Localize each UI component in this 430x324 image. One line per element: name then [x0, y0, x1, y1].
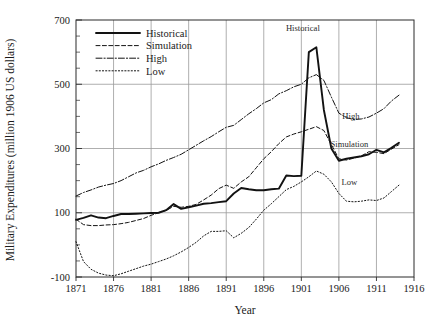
chart-container: 1871187618811886189118961901190619111916… — [0, 0, 430, 324]
x-tick-label: 1891 — [216, 283, 237, 294]
annotation-historical: Historical — [286, 23, 321, 33]
x-tick-label: 1896 — [253, 283, 274, 294]
y-axis-title: Military Expenditures (million 1906 US d… — [4, 39, 17, 262]
military-expenditures-line-chart: 1871187618811886189118961901190619111916… — [0, 0, 430, 324]
annotation-high: High — [342, 111, 360, 121]
y-tick-label: 300 — [54, 143, 70, 154]
x-axis-title: Year — [234, 304, 255, 316]
x-tick-label: 1916 — [404, 283, 425, 294]
y-tick-label: 500 — [54, 79, 70, 90]
legend-label-high: High — [146, 53, 168, 64]
legend-label-low: Low — [146, 66, 166, 77]
legend-label-historical: Historical — [146, 28, 187, 39]
x-tick-label: 1871 — [66, 283, 87, 294]
y-tick-label: 700 — [54, 15, 70, 26]
x-tick-label: 1876 — [103, 283, 124, 294]
y-tick-label: -100 — [51, 272, 70, 283]
annotation-low: Low — [342, 177, 359, 187]
x-tick-label: 1906 — [328, 283, 349, 294]
x-tick-label: 1886 — [178, 283, 199, 294]
x-tick-label: 1911 — [366, 283, 387, 294]
legend-label-simulation: Simulation — [146, 40, 193, 51]
annotation-simulation: Simulation — [331, 139, 369, 149]
x-tick-label: 1901 — [291, 283, 312, 294]
y-tick-label: 100 — [54, 207, 70, 218]
x-tick-label: 1881 — [141, 283, 162, 294]
